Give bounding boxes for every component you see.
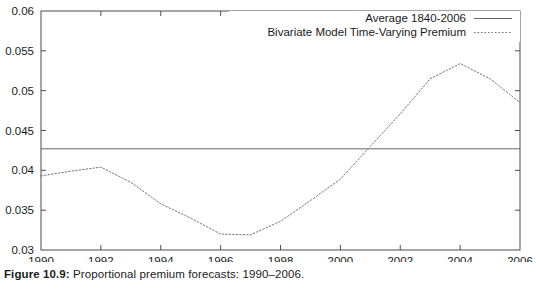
- x-tick-label: 1992: [88, 255, 114, 262]
- y-tick-label: 0.045: [5, 125, 34, 137]
- chart-legend: Average 1840-2006 Bivariate Model Time-V…: [229, 11, 520, 42]
- y-tick-label: 0.035: [5, 204, 34, 216]
- x-tick-label: 2000: [328, 255, 354, 262]
- y-tick-label: 0.055: [5, 45, 34, 57]
- x-tick-label: 1998: [268, 255, 294, 262]
- y-tick-label: 0.05: [12, 85, 34, 97]
- legend-label-bivariate-model: Bivariate Model Time-Varying Premium: [267, 26, 466, 38]
- caption-label: Figure 10.9:: [4, 268, 70, 280]
- caption-text: Proportional premium forecasts: 1990–200…: [73, 268, 304, 280]
- x-tick-label: 1990: [28, 255, 54, 262]
- x-axis-tick-labels: 199019921994199619982000200220042006: [28, 255, 533, 262]
- x-tick-label: 2004: [447, 255, 473, 262]
- axis-tick-marks: [41, 11, 520, 250]
- x-tick-label: 2006: [507, 255, 533, 262]
- y-tick-label: 0.06: [12, 5, 34, 17]
- legend-label-average: Average 1840-2006: [365, 12, 466, 24]
- y-tick-label: 0.04: [12, 164, 35, 176]
- figure-container: 0.030.0350.040.0450.050.0550.06 19901992…: [0, 0, 536, 292]
- x-tick-label: 2002: [387, 255, 413, 262]
- y-axis-tick-labels: 0.030.0350.040.0450.050.0550.06: [5, 5, 34, 256]
- figure-caption: Figure 10.9: Proportional premium foreca…: [4, 268, 532, 280]
- line-chart: 0.030.0350.040.0450.050.0550.06 19901992…: [0, 0, 536, 262]
- plot-frame: [41, 11, 520, 250]
- x-tick-label: 1996: [208, 255, 234, 262]
- x-tick-label: 1994: [148, 255, 174, 262]
- chart-plot-area: 0.030.0350.040.0450.050.0550.06 19901992…: [0, 0, 536, 262]
